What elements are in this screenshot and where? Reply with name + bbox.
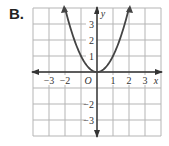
svg-text:x: x — [153, 75, 159, 86]
svg-text:y: y — [100, 8, 106, 19]
svg-text:2: 2 — [127, 75, 132, 86]
svg-text:3: 3 — [143, 75, 148, 86]
tick-labels: −3−2123321−2−3Oxy — [43, 8, 160, 126]
svg-text:O: O — [84, 75, 91, 86]
svg-text:1: 1 — [89, 51, 94, 62]
svg-text:3: 3 — [89, 19, 94, 30]
svg-text:−2: −2 — [60, 75, 71, 86]
svg-text:−3: −3 — [44, 75, 55, 86]
svg-text:−3: −3 — [83, 115, 94, 126]
svg-text:−2: −2 — [83, 99, 94, 110]
graph: −3−2123321−2−3Oxy — [0, 0, 169, 146]
svg-text:2: 2 — [89, 35, 94, 46]
svg-text:1: 1 — [111, 75, 116, 86]
